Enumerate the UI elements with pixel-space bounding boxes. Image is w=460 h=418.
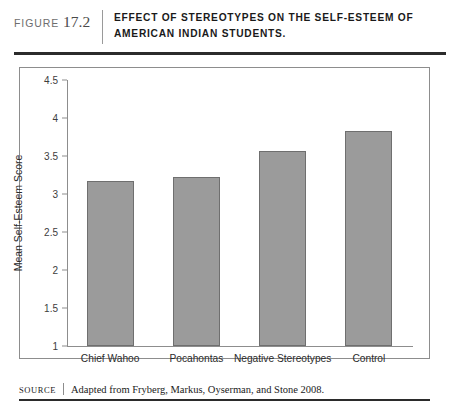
y-axis-tick-mark [62, 270, 67, 271]
y-axis-tick-label: 1.5 [44, 303, 58, 314]
y-axis-tick-label: 4 [52, 113, 58, 124]
bar [173, 177, 220, 346]
y-axis-tick-label: 2.5 [44, 227, 58, 238]
y-axis-tick-mark [62, 346, 67, 347]
y-axis-tick: 4 [52, 113, 67, 124]
y-axis-tick-label: 3 [52, 189, 58, 200]
figure-title: EFFECT OF STEREOTYPES ON THE SELF-ESTEEM… [114, 10, 446, 41]
bar [345, 131, 392, 346]
x-axis-category-label: Control [352, 353, 385, 364]
bar [259, 151, 306, 346]
y-axis-tick: 4.5 [44, 75, 67, 86]
source-row: SOURCE Adapted from Fryberg, Markus, Oys… [19, 381, 430, 395]
y-axis-tick: 1.5 [44, 303, 67, 314]
y-axis-tick: 2 [52, 265, 67, 276]
y-axis-tick-mark [62, 308, 67, 309]
x-axis-category-label: Negative Stereotypes [234, 353, 331, 364]
chart-frame: Mean Self-Esteem Score 11.522.533.544.5C… [19, 67, 430, 359]
header-divider [102, 10, 103, 44]
figure-label-word: FIGURE [14, 17, 59, 29]
y-axis-tick-mark [62, 194, 67, 195]
y-axis-tick: 3.5 [44, 151, 67, 162]
y-axis-tick: 3 [52, 189, 67, 200]
y-axis-tick-label: 1 [52, 341, 58, 352]
bar [87, 181, 134, 346]
source-text: Adapted from Fryberg, Markus, Oyserman, … [71, 384, 324, 395]
y-axis-tick: 1 [52, 341, 67, 352]
source-label: SOURCE [19, 385, 63, 395]
x-axis-category-label: Pocahontas [169, 353, 223, 364]
y-axis-tick-mark [62, 156, 67, 157]
y-axis-tick-label: 3.5 [44, 151, 58, 162]
y-axis-tick-mark [62, 80, 67, 81]
footer-rule [19, 399, 430, 401]
source-divider [63, 383, 64, 395]
y-axis-title: Mean Self-Esteem Score [12, 155, 24, 272]
figure-number: 17.2 [63, 13, 90, 30]
y-axis-tick-label: 2 [52, 265, 58, 276]
x-axis-line [67, 346, 413, 347]
figure-label: FIGURE17.2 [14, 10, 102, 31]
plot-area: 11.522.533.544.5Chief WahooPocahontasNeg… [67, 80, 412, 346]
x-axis-category-label: Chief Wahoo [81, 353, 140, 364]
y-axis-tick: 2.5 [44, 227, 67, 238]
y-axis-tick-label: 4.5 [44, 75, 58, 86]
header-rule [14, 52, 446, 55]
figure-header: FIGURE17.2 EFFECT OF STEREOTYPES ON THE … [14, 10, 446, 52]
y-axis-tick-mark [62, 118, 67, 119]
y-axis-tick-mark [62, 232, 67, 233]
